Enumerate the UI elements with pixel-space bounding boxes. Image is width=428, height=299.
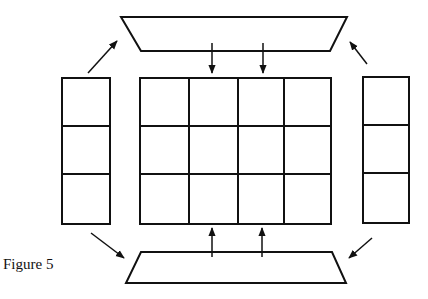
arrow-right-to-top-icon (350, 42, 367, 64)
top-trapezoid (121, 17, 347, 51)
panel-border (363, 77, 409, 223)
right-panel (363, 77, 409, 223)
center-grid (140, 78, 331, 224)
left-panel (62, 78, 110, 224)
arrow-left-to-top-icon (88, 41, 117, 73)
bottom-trapezoid (126, 252, 346, 283)
figure-caption: Figure 5 (3, 256, 53, 273)
grid-border (140, 78, 331, 224)
arrow-right-to-bottom-icon (349, 238, 372, 258)
figure-diagram (0, 0, 428, 299)
panel-border (62, 78, 110, 224)
arrows (88, 41, 372, 258)
arrow-left-to-bottom-icon (91, 233, 124, 258)
